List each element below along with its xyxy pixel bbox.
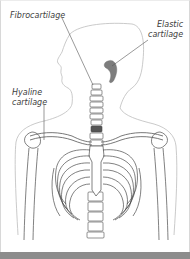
label-hyaline-line1: Hyaline [12,88,47,98]
label-fibrocartilage: Fibrocartilage [10,11,65,21]
label-elastic-cartilage: Elastic cartilage [148,20,183,39]
label-hyaline-line2: cartilage [12,98,47,108]
bottom-bar [0,252,190,259]
label-hyaline-cartilage: Hyaline cartilage [12,88,47,107]
leader-fibrocartilage [62,18,93,85]
sternum [89,146,104,196]
label-elastic-line1: Elastic [148,20,183,30]
label-elastic-line2: cartilage [148,30,183,40]
